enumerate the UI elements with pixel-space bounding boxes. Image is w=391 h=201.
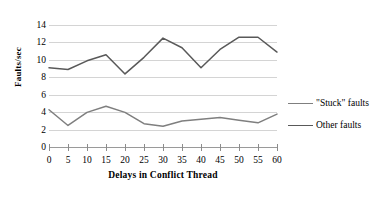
- x-tick: [87, 144, 88, 151]
- x-axis-title: Delays in Conflict Thread: [49, 170, 277, 180]
- x-tick: [277, 144, 278, 151]
- x-axis-ticks: [49, 147, 277, 153]
- x-tick: [144, 144, 145, 151]
- x-tick: [163, 144, 164, 151]
- y-tick-label: 14: [26, 20, 46, 30]
- y-tick-label: 0: [26, 142, 46, 152]
- chart-figure: Faults/sec 02468101214 05101520253035404…: [0, 0, 391, 201]
- plot-area: [49, 25, 277, 147]
- x-tick: [201, 144, 202, 151]
- x-tick: [68, 144, 69, 151]
- y-tick-label: 2: [26, 125, 46, 135]
- y-tick-label: 12: [26, 37, 46, 47]
- y-tick-label: 4: [26, 107, 46, 117]
- x-axis-tick-labels: 051015202530354045505560: [49, 154, 277, 168]
- series-line: [49, 106, 277, 126]
- chart-legend: "Stuck" faultsOther faults: [288, 92, 391, 136]
- series-line: [49, 37, 277, 74]
- x-tick: [106, 144, 107, 151]
- x-tick: [258, 144, 259, 151]
- legend-swatch: [288, 125, 313, 126]
- legend-swatch: [288, 103, 313, 104]
- x-tick: [239, 144, 240, 151]
- x-tick: [125, 144, 126, 151]
- series-lines: [49, 25, 277, 147]
- legend-label: "Stuck" faults: [316, 98, 369, 108]
- x-tick-label: 60: [266, 154, 288, 166]
- legend-label: Other faults: [316, 120, 361, 130]
- y-tick-label: 6: [26, 90, 46, 100]
- x-tick: [49, 144, 50, 151]
- x-tick: [182, 144, 183, 151]
- x-tick: [220, 144, 221, 151]
- y-axis-tick-labels: 02468101214: [26, 0, 46, 201]
- y-axis-title: Faults/sec: [13, 27, 23, 107]
- legend-entry[interactable]: "Stuck" faults: [288, 92, 391, 114]
- legend-entry[interactable]: Other faults: [288, 114, 391, 136]
- y-tick-label: 10: [26, 55, 46, 65]
- y-tick-label: 8: [26, 72, 46, 82]
